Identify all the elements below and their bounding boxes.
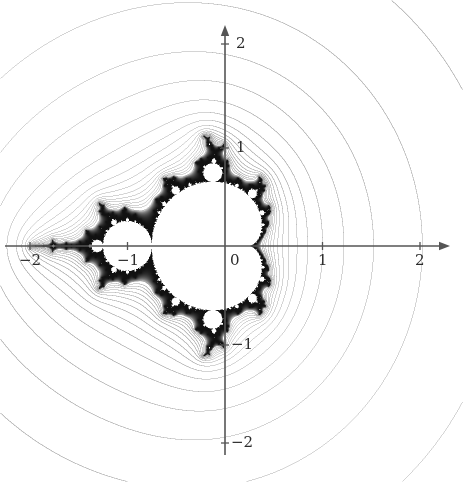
x-tick-label-1: 1	[318, 253, 328, 268]
y-tick-label-neg1: −1	[231, 337, 253, 352]
y-tick-label-neg2: −2	[231, 435, 253, 450]
x-tick-label-2: 2	[415, 253, 425, 268]
mandelbrot-plot-canvas	[0, 0, 463, 482]
mandelbrot-figure: 21−1−2−2−1012	[0, 0, 463, 482]
x-tick-label-neg1: −1	[117, 253, 139, 268]
y-tick-label-1: 1	[236, 140, 246, 155]
x-tick-label-neg2: −2	[19, 253, 41, 268]
x-tick-label-0: 0	[230, 253, 240, 268]
y-tick-label-2: 2	[236, 36, 246, 51]
